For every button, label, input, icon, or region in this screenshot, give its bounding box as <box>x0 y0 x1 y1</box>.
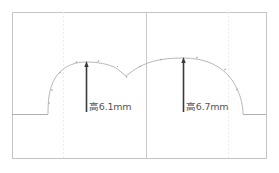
curve-tick-marks <box>48 57 238 103</box>
diagram-canvas: 高6.1mm 高6.7mm <box>0 0 279 173</box>
height-label-left: 高6.1mm <box>89 99 131 113</box>
height-label-right: 高6.7mm <box>186 99 228 113</box>
